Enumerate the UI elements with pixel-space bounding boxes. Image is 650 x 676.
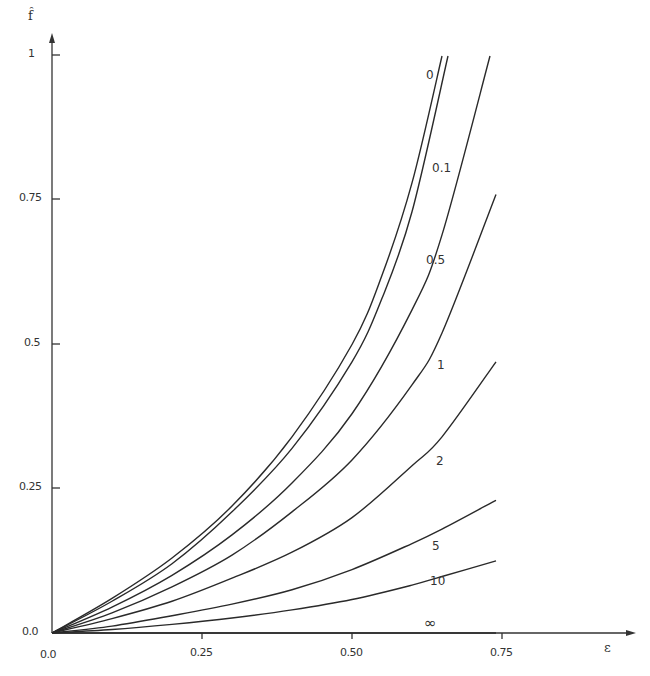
chart-canvas [0,0,650,676]
curve-1 [52,56,448,633]
y-tick-label-1: 1 [28,47,35,60]
x-tick-label-0: 0.0 [40,648,56,661]
y-axis-arrow-icon [49,33,55,43]
curve-label-0-5: 0.5 [426,253,445,267]
x-axis-title: ε [604,640,611,655]
curve-2 [52,56,490,633]
x-tick-label-075: 0.75 [490,646,513,659]
curve-label-1: 1 [437,358,445,372]
curve-label-0-1: 0.1 [432,161,451,175]
curve-label-inf: ∞ [424,614,437,632]
y-tick-label-05: 0.5 [24,336,40,349]
curve-label-0: 0 [426,68,434,82]
curve-label-2: 2 [436,454,444,468]
x-tick-label-025: 0.25 [190,646,213,659]
curve-0 [52,56,442,633]
y-tick-label-075: 0.75 [19,191,42,204]
curve-label-5: 5 [432,539,440,553]
y-tick-label-0: 0.0 [22,625,38,638]
x-axis-arrow-icon [626,630,636,636]
x-tick-label-050: 0.50 [340,646,363,659]
y-tick-label-025: 0.25 [19,480,42,493]
curves [52,56,496,633]
curve-label-10: 10 [430,574,445,588]
y-axis-title: f̂ [28,8,33,23]
curve-4 [52,362,496,633]
axes [52,40,628,639]
